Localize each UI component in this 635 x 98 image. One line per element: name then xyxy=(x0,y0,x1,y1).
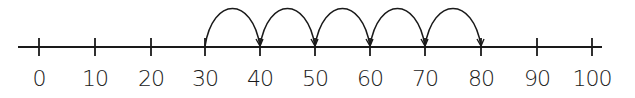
jump-arc xyxy=(370,9,425,47)
jump-arc xyxy=(425,9,481,47)
tick-label: 0 xyxy=(33,66,46,91)
tick-label: 100 xyxy=(573,66,612,91)
tick-label: 40 xyxy=(247,66,273,91)
number-line: 0102030405060708090100 xyxy=(0,0,635,98)
tick-label: 50 xyxy=(302,66,328,91)
tick-label: 10 xyxy=(82,66,108,91)
jump-arc xyxy=(205,9,260,47)
tick-label: 20 xyxy=(138,66,164,91)
number-line-diagram: 0102030405060708090100 xyxy=(0,0,635,98)
tick-label: 80 xyxy=(468,66,494,91)
tick-label: 70 xyxy=(412,66,438,91)
tick-label: 30 xyxy=(192,66,218,91)
jump-arc xyxy=(260,9,315,47)
tick-label: 60 xyxy=(357,66,383,91)
jump-arc xyxy=(315,9,370,47)
tick-label: 90 xyxy=(524,66,550,91)
